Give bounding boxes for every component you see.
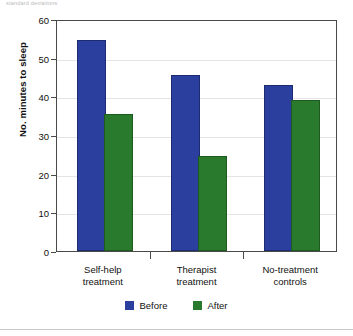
bar-after-2: [291, 100, 320, 251]
y-tick-label: 60: [23, 15, 49, 26]
y-tick-mark: [51, 252, 56, 253]
legend-item-before: Before: [125, 300, 167, 311]
chart-legend: BeforeAfter: [0, 300, 353, 311]
y-tick-label: 40: [23, 92, 49, 103]
plot-area: [56, 20, 337, 252]
legend-label: Before: [139, 300, 167, 311]
legend-swatch-after: [193, 301, 202, 310]
legend-swatch-before: [125, 301, 134, 310]
bar-after-1: [198, 156, 227, 251]
x-category-label-0: Self-helptreatment: [56, 264, 150, 287]
legend-label: After: [207, 300, 227, 311]
x-axis-separator: [150, 252, 151, 259]
x-axis-separator: [243, 252, 244, 259]
bar-after-0: [104, 114, 133, 251]
bar-before-2: [264, 85, 293, 251]
legend-item-after: After: [193, 300, 227, 311]
y-tick-label: 30: [23, 131, 49, 142]
bar-before-1: [171, 75, 200, 251]
bar-chart-figure: standard deviations No. minutes to sleep…: [0, 0, 353, 336]
x-category-label-1: Therapisttreatment: [150, 264, 244, 287]
bar-before-0: [77, 40, 106, 251]
bar-series-layer: [57, 21, 336, 251]
y-tick-label: 0: [23, 247, 49, 258]
y-tick-label: 50: [23, 53, 49, 64]
y-tick-label: 10: [23, 208, 49, 219]
y-tick-label: 20: [23, 169, 49, 180]
x-category-label-2: No-treatmentcontrols: [243, 264, 337, 287]
bottom-divider: [0, 329, 353, 330]
